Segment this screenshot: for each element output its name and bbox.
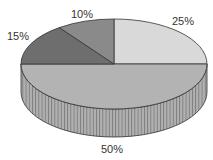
pie-chart: 25% 50% 15% 10% (0, 0, 213, 160)
pie-top-layer (21, 19, 207, 109)
label-25: 25% (172, 15, 194, 27)
label-15: 15% (7, 30, 29, 42)
label-50: 50% (101, 143, 123, 155)
label-10: 10% (71, 8, 93, 20)
